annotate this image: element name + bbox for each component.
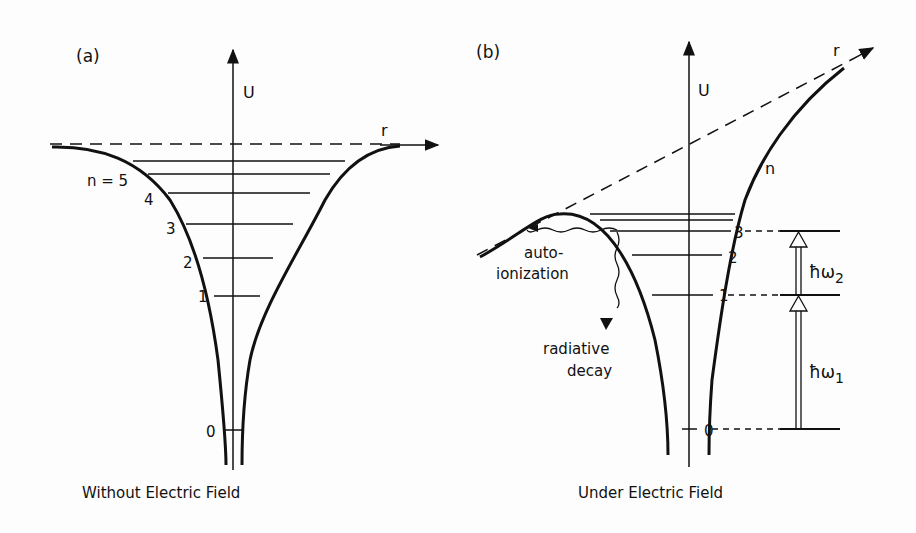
panel-b: (b) U r n 3 2 1 0 auto- ionization radia…	[476, 41, 873, 502]
n-label-b: n	[765, 159, 775, 178]
diagram: (a) U r n = 5 4 3 2 1 0 Without Electric…	[0, 0, 916, 533]
svg-text:1: 1	[198, 288, 208, 306]
panel-a-tag: (a)	[76, 46, 100, 66]
svg-text:decay: decay	[567, 362, 612, 380]
svg-text:ħω1: ħω1	[809, 362, 844, 386]
svg-text:1: 1	[719, 287, 729, 305]
caption-a: Without Electric Field	[82, 484, 240, 502]
svg-text:n = 5: n = 5	[87, 172, 128, 190]
u-label-a: U	[243, 83, 255, 102]
svg-text:0: 0	[704, 422, 714, 440]
svg-text:ionization: ionization	[496, 265, 569, 283]
svg-text:3: 3	[166, 220, 176, 238]
photon-arrow-2	[790, 232, 807, 295]
u-label-b: U	[698, 81, 710, 100]
svg-text:3: 3	[734, 224, 744, 242]
svg-text:2: 2	[728, 249, 738, 267]
svg-text:0: 0	[206, 423, 216, 441]
caption-b: Under Electric Field	[578, 484, 723, 502]
photon-arrow-1	[790, 296, 807, 429]
svg-text:2: 2	[183, 254, 193, 272]
panel-a: (a) U r n = 5 4 3 2 1 0 Without Electric…	[50, 46, 438, 502]
svg-text:4: 4	[144, 191, 154, 209]
r-label-a: r	[381, 121, 388, 140]
svg-text:ħω2: ħω2	[809, 262, 844, 286]
r-axis-b	[860, 48, 873, 55]
r-label-b: r	[833, 41, 840, 60]
panel-b-tag: (b)	[476, 42, 500, 62]
svg-text:auto-: auto-	[524, 244, 563, 262]
svg-text:radiative: radiative	[543, 340, 609, 358]
